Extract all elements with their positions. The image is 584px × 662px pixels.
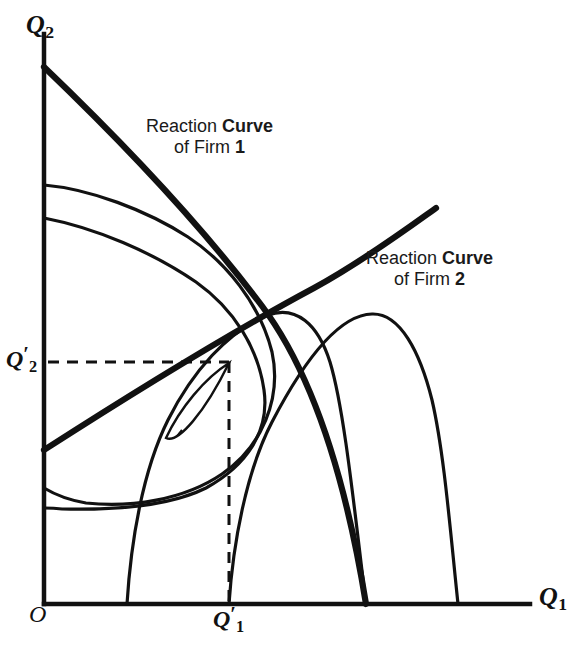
reaction-curve-2-annotation-line1: Reaction Curve <box>366 248 493 269</box>
isoprofit-curve-firm2-inner <box>44 185 275 504</box>
reaction-curve-1-annotation-line2: of Firm 1 <box>146 137 273 158</box>
reaction-curve-2-annotation-line2: of Firm 2 <box>366 269 493 290</box>
rc2-line2-emph: 2 <box>455 269 465 289</box>
rc1-line1-text: Reaction <box>146 116 222 136</box>
q1-prime-tick-label: Q′1 <box>213 604 244 635</box>
q2-prime-letter: Q <box>6 346 23 372</box>
reaction-curve-firm-2 <box>44 208 436 450</box>
q2-prime-tick-label: Q′2 <box>6 344 37 375</box>
cournot-diagram: Q2 Q1 O Q′2 Q′1 Reaction Curve of Firm 1… <box>0 0 584 662</box>
q1-prime-letter: Q <box>213 606 230 632</box>
x-axis-label-letter: Q <box>539 582 558 611</box>
axes-group <box>44 34 530 604</box>
y-axis-label-subscript: 2 <box>45 22 54 42</box>
q1-prime-mark: ′ <box>230 603 235 625</box>
diagram-canvas <box>0 0 584 662</box>
y-axis-label: Q2 <box>26 12 54 42</box>
q1-prime-subscript: 1 <box>236 617 245 636</box>
origin-label: O <box>29 602 46 626</box>
q2-prime-mark: ′ <box>23 343 28 365</box>
q2-prime-subscript: 2 <box>29 357 38 376</box>
rc2-line1-emph: Curve <box>442 248 493 268</box>
y-axis-label-letter: Q <box>26 10 45 39</box>
rc2-line2-text: of Firm <box>394 269 455 289</box>
isoprofit-curve-firm1-inner <box>127 312 366 604</box>
reaction-curve-2-annotation: Reaction Curve of Firm 2 <box>366 248 493 290</box>
x-axis-label: Q1 <box>539 584 567 614</box>
rc1-line2-text: of Firm <box>174 137 235 157</box>
rc1-line2-emph: 1 <box>235 137 245 157</box>
rc2-line1-text: Reaction <box>366 248 442 268</box>
rc1-line1-emph: Curve <box>222 116 273 136</box>
reaction-curve-1-annotation-line1: Reaction Curve <box>146 116 273 137</box>
isoprofit-curve-firm1-outer <box>229 314 458 604</box>
reaction-curve-1-annotation: Reaction Curve of Firm 1 <box>146 116 273 158</box>
x-axis-label-subscript: 1 <box>558 594 567 614</box>
